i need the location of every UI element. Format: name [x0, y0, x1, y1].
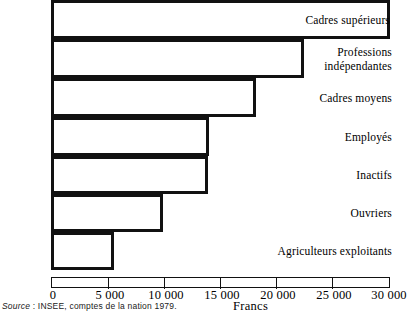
bar-label-professions-independantes: Professions indépendantes	[288, 44, 392, 72]
bar-row: Ouvriers	[0, 194, 398, 232]
bars-area: Cadres supérieurs Professions indépendan…	[0, 0, 398, 270]
bar-row: Employés	[0, 117, 398, 156]
bar-label-cadres-moyens: Cadres moyens	[319, 90, 392, 104]
bar-cadres-moyens	[51, 78, 256, 117]
source-note-rest: : INSEE, comptes de la nation 1979.	[30, 301, 177, 311]
bar-inactifs	[51, 156, 208, 194]
bar-label-line2: indépendantes	[324, 60, 392, 72]
source-note: Source : INSEE, comptes de la nation 197…	[2, 301, 177, 311]
bar-professions-independantes	[51, 39, 304, 78]
bar-label-cadres-superieurs: Cadres supérieurs	[305, 12, 390, 26]
bar-label-agriculteurs-exploitants: Agriculteurs exploitants	[278, 244, 392, 258]
source-note-prefix: Source	[2, 301, 30, 311]
bar-label-ouvriers: Ouvriers	[351, 206, 392, 220]
bar-row: Inactifs	[0, 156, 398, 194]
axis-tick-label: 30 000	[371, 288, 407, 303]
bar-label-employes: Employés	[345, 129, 392, 143]
x-axis-title: Francs	[233, 299, 268, 313]
bar-employes	[51, 117, 209, 156]
bar-ouvriers	[51, 194, 163, 232]
bar-label-inactifs: Inactifs	[356, 168, 392, 182]
bar-agriculteurs-exploitants	[51, 232, 114, 270]
bar-row: Professions indépendantes	[0, 39, 398, 78]
axis-tick-label: 25 000	[316, 288, 352, 303]
bar-row: Cadres moyens	[0, 78, 398, 117]
x-axis	[51, 277, 390, 288]
bar-label-line1: Professions	[337, 45, 392, 57]
bar-row: Cadres supérieurs	[0, 0, 398, 39]
bar-row: Agriculteurs exploitants	[0, 232, 398, 270]
